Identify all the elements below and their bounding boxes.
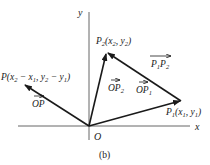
vector-op2 [89, 54, 106, 126]
vector-op-label: OP [32, 96, 45, 109]
point-p-label: P(x2 − x1, y2 − y1) [0, 72, 70, 83]
svg-text:OP: OP [32, 99, 45, 109]
point-p2-label: P2(x2, y2) [95, 36, 131, 47]
svg-text:OP2: OP2 [108, 83, 125, 94]
vector-op1-label: OP1 [136, 82, 152, 96]
figure-caption: (b) [99, 150, 110, 161]
svg-text:OP1: OP1 [136, 85, 152, 96]
origin-label: O [94, 131, 101, 142]
x-axis-label: x [194, 121, 200, 132]
vector-p1p2-label: P1P2 [150, 56, 171, 70]
vector-op2-label: OP2 [108, 80, 125, 94]
point-p1-label: P1(x1, y1) [165, 107, 201, 118]
vector-diagram: x y O P2(x2, y2) P1(x1, y1) P(x2 − x1, y… [0, 0, 210, 165]
y-axis-label: y [77, 7, 83, 18]
svg-text:P1P2: P1P2 [150, 59, 170, 70]
